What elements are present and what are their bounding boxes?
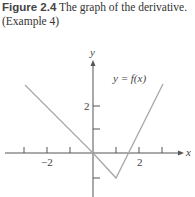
x-axis-arrow-icon <box>178 151 184 156</box>
y-axis-arrow-icon <box>91 60 96 66</box>
x-tick-label-neg2: −2 <box>41 156 53 168</box>
y-tick-label-2: 2 <box>84 100 90 112</box>
y-ticks <box>93 106 100 178</box>
derivative-graph: −2 2 2 x y y = f(x) <box>0 0 195 197</box>
x-tick-label-2: 2 <box>137 156 143 168</box>
y-axis-label: y <box>89 46 95 58</box>
curve-label: y = f(x) <box>112 72 146 85</box>
x-axis-label: x <box>185 146 191 158</box>
